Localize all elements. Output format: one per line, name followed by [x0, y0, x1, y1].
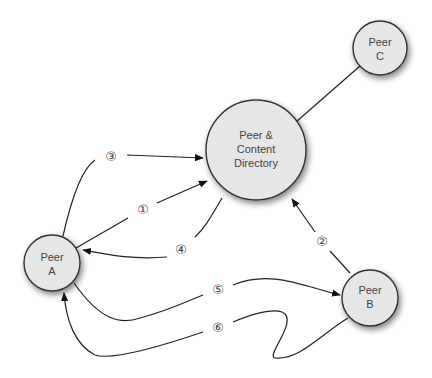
directory-label-line3: Directory — [234, 157, 279, 169]
node-peer-c: Peer C — [353, 21, 407, 75]
step-label-2: ② — [316, 234, 328, 249]
edge-step-6-left — [64, 293, 203, 356]
directory-label-line1: Peer & — [239, 129, 273, 141]
edge-step-5-right — [233, 279, 340, 295]
step-label-4: ④ — [175, 242, 187, 257]
peer-c-label-line1: Peer — [368, 36, 392, 48]
node-peer-b: Peer B — [342, 270, 398, 326]
edge-step-4-lower — [83, 250, 167, 258]
edge-step-5-left — [74, 283, 203, 321]
p2p-diagram: ③ ① ④ ② ⑤ ⑥ Peer & Content Directory Pee… — [0, 0, 432, 378]
edge-step-2-lower — [330, 251, 350, 273]
step-label-5: ⑤ — [212, 282, 224, 297]
edge-step-1-left — [76, 218, 128, 248]
node-directory: Peer & Content Directory — [206, 100, 306, 200]
edge-step-1-right — [157, 181, 207, 203]
node-peer-a: Peer A — [24, 235, 80, 291]
edge-step-2-upper — [292, 199, 315, 232]
edge-directory-peer-c — [296, 66, 360, 122]
step-label-3: ③ — [105, 149, 117, 164]
edge-step-6-right — [233, 311, 348, 358]
edge-step-3-right — [127, 155, 203, 158]
peer-a-label-line1: Peer — [40, 251, 64, 263]
peer-a-label-line2: A — [48, 265, 56, 277]
peer-b-label-line2: B — [366, 298, 373, 310]
edge-step-3-left — [63, 160, 95, 236]
directory-label-line2: Content — [237, 143, 276, 155]
step-label-6: ⑥ — [212, 320, 224, 335]
peer-b-label-line1: Peer — [358, 284, 382, 296]
edge-step-4-upper — [195, 198, 222, 237]
step-label-1: ① — [137, 202, 149, 217]
peer-c-label-line2: C — [376, 50, 384, 62]
